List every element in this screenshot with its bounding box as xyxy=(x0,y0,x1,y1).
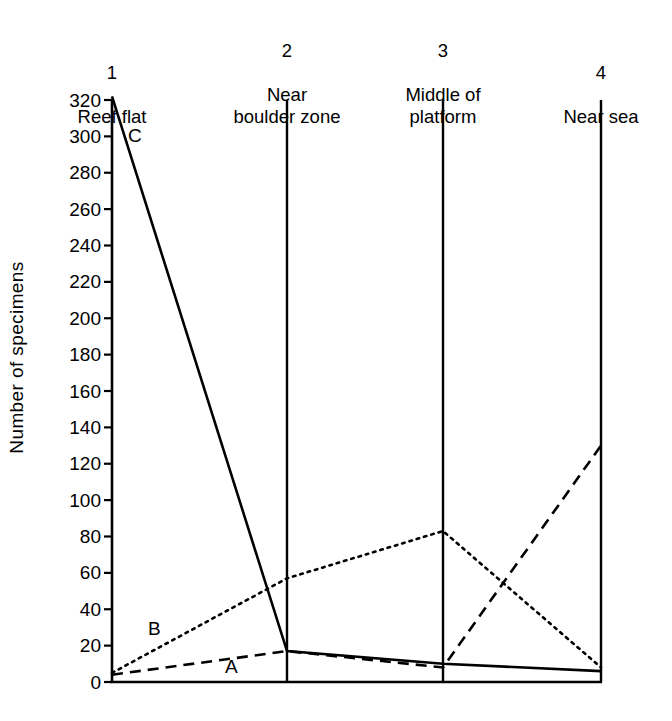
y-tick-label-240: 240 xyxy=(43,236,101,255)
y-tick-label-300: 300 xyxy=(43,127,101,146)
series-line-C xyxy=(112,96,601,671)
y-tick-label-280: 280 xyxy=(43,163,101,182)
chart-figure: Number of specimens 1 Reef flat 2 Near b… xyxy=(0,0,672,721)
y-tick-label-320: 320 xyxy=(43,91,101,110)
y-tick-label-120: 120 xyxy=(43,454,101,473)
y-tick-label-0: 0 xyxy=(43,673,101,692)
y-tick-label-200: 200 xyxy=(43,309,101,328)
y-tick-label-100: 100 xyxy=(43,491,101,510)
y-tick-label-260: 260 xyxy=(43,200,101,219)
y-tick-label-140: 140 xyxy=(43,418,101,437)
series-line-A xyxy=(112,446,601,675)
y-tick-label-60: 60 xyxy=(43,563,101,582)
y-tick-label-40: 40 xyxy=(43,600,101,619)
y-tick-label-160: 160 xyxy=(43,382,101,401)
y-tick-label-220: 220 xyxy=(43,272,101,291)
y-tick-label-20: 20 xyxy=(43,636,101,655)
series-annotation-B: B xyxy=(148,619,161,638)
series-annotation-A: A xyxy=(225,657,238,676)
y-tick-label-80: 80 xyxy=(43,527,101,546)
series-annotation-C: C xyxy=(128,126,142,145)
series-line-B xyxy=(112,531,601,673)
y-tick-label-180: 180 xyxy=(43,345,101,364)
